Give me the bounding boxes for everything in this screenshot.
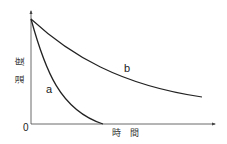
x-axis-label: 時 間 [112, 128, 139, 138]
curve-a [31, 19, 103, 124]
curve-a-label: a [46, 83, 53, 95]
temperature-time-chart: a b 0 時 間 温 度 [0, 0, 227, 144]
origin-label: 0 [23, 122, 29, 133]
curve-b-label: b [124, 62, 130, 74]
y-axis-arrow-icon [30, 10, 33, 14]
y-axis-label: 温 度 [14, 57, 25, 84]
x-axis-arrow-icon [212, 123, 216, 126]
